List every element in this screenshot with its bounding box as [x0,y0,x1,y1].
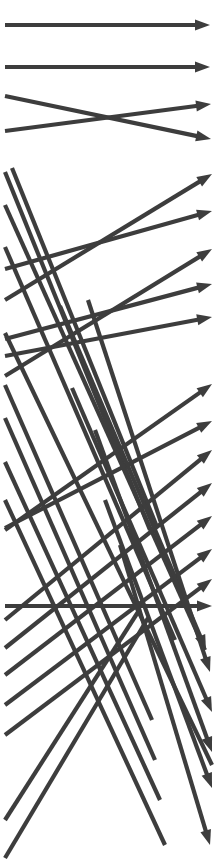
arrow-field-svg [0,0,218,867]
figure-canvas [0,0,218,867]
